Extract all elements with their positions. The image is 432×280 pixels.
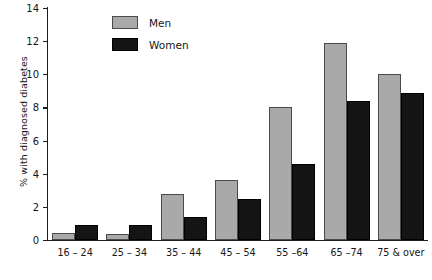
x-axis-tick-label: 75 & over xyxy=(377,247,424,258)
y-axis-tick-label: 12 xyxy=(26,36,39,47)
legend-label-men: Men xyxy=(149,17,171,29)
bar-women xyxy=(75,225,98,240)
legend-swatch-men-icon xyxy=(112,16,138,29)
x-axis-line xyxy=(47,240,428,241)
bar-pair xyxy=(319,8,373,240)
bar-group xyxy=(211,8,265,240)
bar-women xyxy=(347,101,370,240)
x-axis-tick-label: 45 – 54 xyxy=(220,247,255,258)
bar-group xyxy=(265,8,319,240)
x-axis-tick-label: 35 – 44 xyxy=(166,247,201,258)
y-axis-tick-label: 8 xyxy=(33,102,39,113)
bar-women xyxy=(129,225,152,240)
y-axis-tick-label: 4 xyxy=(33,168,39,179)
x-axis-tick-label: 65 –74 xyxy=(330,247,362,258)
y-axis-tick-label: 0 xyxy=(33,235,39,246)
legend-label-women: Women xyxy=(149,39,189,51)
bar-men xyxy=(161,194,184,240)
x-axis-tick-label: 25 – 34 xyxy=(112,247,147,258)
bar-men xyxy=(52,233,75,240)
y-axis-tick-label: 6 xyxy=(33,135,39,146)
bar-women xyxy=(184,217,207,240)
y-axis-tick-label: 2 xyxy=(33,201,39,212)
x-axis-tick-label: 55 –64 xyxy=(276,247,308,258)
bar-pair xyxy=(374,8,428,240)
bar-men xyxy=(378,74,401,240)
bar-women xyxy=(401,93,424,240)
plot-area: 02468101214 xyxy=(48,8,428,240)
y-axis-tick-label: 14 xyxy=(26,3,39,14)
legend-item-women: Women xyxy=(112,38,189,51)
bar-men xyxy=(269,107,292,240)
bar-pair xyxy=(265,8,319,240)
chart-legend: Men Women xyxy=(112,16,189,60)
bar-pair xyxy=(211,8,265,240)
y-axis-tick-label: 10 xyxy=(26,69,39,80)
bar-women xyxy=(292,164,315,240)
diabetes-bar-chart: % with diagnosed diabetes 02468101214 Me… xyxy=(0,0,432,280)
x-axis-tick-label: 16 – 24 xyxy=(57,247,92,258)
legend-item-men: Men xyxy=(112,16,189,29)
legend-swatch-women-icon xyxy=(112,38,138,51)
bar-group xyxy=(319,8,373,240)
bar-group xyxy=(48,8,102,240)
bar-men xyxy=(106,234,129,240)
bar-men xyxy=(324,43,347,240)
bar-women xyxy=(238,199,261,240)
bar-group xyxy=(374,8,428,240)
bar-men xyxy=(215,180,238,240)
bar-pair xyxy=(48,8,102,240)
y-axis-tick xyxy=(43,240,48,241)
